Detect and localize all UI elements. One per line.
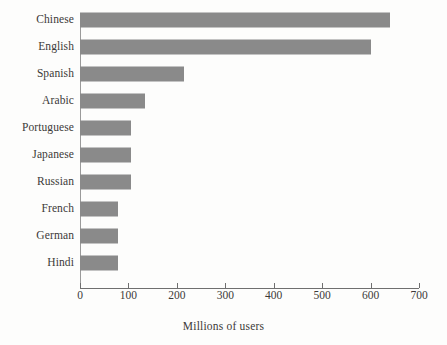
bar-german [80,229,118,244]
x-axis-tick [225,283,226,288]
x-axis-tick [128,283,129,288]
category-label: Arabic [42,95,74,107]
bar-japanese [80,148,131,163]
category-label: Hindi [47,257,74,269]
category-label: Russian [37,176,74,188]
bar-chart-figure: Chinese English Spanish Arabic Portugues… [0,0,447,345]
bar-english [80,40,371,55]
bar-portuguese [80,121,131,136]
category-label: Japanese [32,149,74,161]
x-axis-tick [177,283,178,288]
x-axis-tick-label: 400 [265,290,282,302]
x-axis-tick-label: 500 [314,290,331,302]
bar-row: Arabic [0,89,447,113]
category-label: German [36,230,74,242]
x-axis-tick [274,283,275,288]
bar-arabic [80,94,145,109]
x-axis-tick [371,283,372,288]
category-label: Chinese [36,14,74,26]
bar-row: French [0,197,447,221]
plot-area: Chinese English Spanish Arabic Portugues… [0,0,447,345]
x-axis-tick-label: 300 [217,290,234,302]
bar-row: Chinese [0,8,447,32]
x-axis-tick [322,283,323,288]
category-label: English [38,41,74,53]
bar-row: English [0,35,447,59]
x-axis-tick-label: 100 [120,290,137,302]
x-axis-tick-label: 0 [77,290,83,302]
x-axis-tick-label: 600 [362,290,379,302]
bar-row: Spanish [0,62,447,86]
bar-row: German [0,224,447,248]
category-label: French [41,203,74,215]
category-label: Portuguese [22,122,74,134]
x-axis-title: Millions of users [0,320,447,332]
bar-row: Hindi [0,251,447,275]
x-axis-tick-label: 700 [410,290,427,302]
bar-russian [80,175,131,190]
bar-french [80,202,118,217]
bar-chinese [80,13,390,28]
bar-row: Portuguese [0,116,447,140]
x-axis-tick [419,283,420,288]
bar-row: Russian [0,170,447,194]
x-axis-tick [80,283,81,288]
x-axis-tick-label: 200 [168,290,185,302]
bar-row: Japanese [0,143,447,167]
category-label: Spanish [37,68,74,80]
bar-spanish [80,67,184,82]
bar-hindi [80,256,118,271]
